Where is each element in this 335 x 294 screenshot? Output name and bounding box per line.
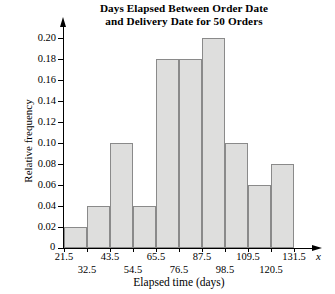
y-axis-title: Relative frequency [22, 61, 34, 221]
origin-label: 0 [50, 241, 55, 252]
histogram-bar [156, 59, 179, 248]
histogram-figure: Days Elapsed Between Order Date and Deli… [0, 0, 335, 294]
chart-title-line-1: Days Elapsed Between Order Date [50, 2, 318, 15]
x-axis-tick-label: 131.5 [282, 251, 306, 262]
histogram-bar [271, 164, 294, 248]
y-axis-tick-label: 0.10 [38, 138, 56, 148]
y-axis-tick-label: 0.08 [38, 159, 56, 169]
y-axis-tick-label: 0.04 [38, 201, 56, 211]
x-axis-tick-label: 76.5 [170, 264, 188, 275]
y-axis-tick-label: 0.18 [38, 54, 56, 64]
y-axis-tick-label: 0.20 [38, 33, 56, 43]
histogram-bar [87, 206, 110, 248]
x-axis-tick-label: 120.5 [259, 264, 283, 275]
y-axis-tick-label: 0.02 [38, 222, 56, 232]
x-axis-tick-label: 65.5 [147, 251, 165, 262]
x-axis-tick [271, 248, 272, 252]
plot-area [64, 38, 294, 248]
x-variable-label: x [316, 250, 321, 262]
x-axis-tick-label: 43.5 [101, 251, 119, 262]
chart-title: Days Elapsed Between Order Date and Deli… [50, 2, 318, 28]
histogram-bar [64, 227, 87, 248]
histogram-bar [133, 206, 156, 248]
y-axis-tick-label: 0.16 [38, 75, 56, 85]
histogram-bar [110, 143, 133, 248]
histogram-bar [202, 38, 225, 248]
x-axis-tick-label: 21.5 [55, 251, 73, 262]
x-axis-title: Elapsed time (days) [64, 276, 294, 288]
y-axis-tick-label: 0.06 [38, 180, 56, 190]
y-axis-tick-label: 0.14 [38, 96, 56, 106]
x-axis-tick-label: 32.5 [78, 264, 96, 275]
x-axis-tick [225, 248, 226, 252]
x-axis-tick-label: 109.5 [236, 251, 260, 262]
y-axis-tick-label: 0.12 [38, 117, 56, 127]
chart-title-line-2: and Delivery Date for 50 Orders [50, 15, 318, 28]
x-axis-tick [87, 248, 88, 252]
histogram-bar [179, 59, 202, 248]
x-axis-tick-label: 54.5 [124, 264, 142, 275]
x-axis-tick [179, 248, 180, 252]
x-axis-line [63, 248, 313, 249]
x-axis-tick-label: 98.5 [216, 264, 234, 275]
x-axis-tick-label: 87.5 [193, 251, 211, 262]
histogram-bar [248, 185, 271, 248]
histogram-bar [225, 143, 248, 248]
x-axis-tick [133, 248, 134, 252]
